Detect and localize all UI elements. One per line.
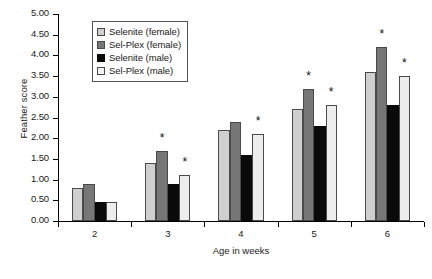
significance-asterisk: * [395, 57, 414, 69]
y-axis-tick: 3.00 [53, 97, 58, 98]
x-axis-tick [131, 222, 132, 227]
legend-swatch-icon [97, 54, 105, 62]
y-axis-line [58, 14, 59, 222]
bar-4-series-3 [252, 134, 263, 221]
legend-item: Selenite (male) [97, 51, 181, 64]
bar-3-series-1 [156, 151, 167, 221]
bar-4-series-0 [218, 130, 229, 221]
legend-item: Sel-Plex (female) [97, 38, 181, 51]
x-axis-tick [58, 222, 59, 227]
y-axis-title: Feather score [18, 39, 29, 179]
y-axis-tick: 4.50 [53, 35, 58, 36]
bar-2-series-1 [83, 184, 94, 221]
x-axis-tick-label: 5 [294, 228, 334, 239]
legend-label: Selenite (male) [109, 52, 172, 63]
y-axis-tick: 2.00 [53, 138, 58, 139]
chart-legend: Selenite (female)Sel-Plex (female)Seleni… [92, 21, 188, 82]
y-axis-tick-label: 2.00 [31, 131, 49, 142]
x-axis-line [58, 221, 424, 222]
y-axis-tick-label: 2.50 [31, 111, 49, 122]
bar-5-series-1 [303, 89, 314, 221]
y-axis-tick-label: 0.00 [31, 214, 49, 225]
y-axis-tick-label: 3.00 [31, 90, 49, 101]
significance-asterisk: * [322, 86, 341, 98]
bar-3-series-0 [145, 163, 156, 221]
bar-group: ** [292, 14, 337, 221]
bar-group: ** [365, 14, 410, 221]
y-axis-tick: 1.50 [53, 159, 58, 160]
legend-label: Selenite (female) [109, 26, 180, 37]
feather-score-bar-chart: Feather score 0.000.501.001.502.002.503.… [0, 0, 432, 279]
bar-3-series-3 [179, 175, 190, 221]
y-axis-tick-label: 1.50 [31, 152, 49, 163]
legend-swatch-icon [97, 67, 105, 75]
y-axis-tick: 0.50 [53, 200, 58, 201]
bar-6-series-0 [365, 72, 376, 221]
bar-2-series-3 [106, 202, 117, 221]
bar-5-series-3 [326, 105, 337, 221]
bar-5-series-0 [292, 109, 303, 221]
bar-group: * [218, 14, 263, 221]
y-axis-tick-label: 4.50 [31, 28, 49, 39]
significance-asterisk: * [248, 115, 267, 127]
x-axis-tick-label: 4 [221, 228, 261, 239]
y-axis-tick: 1.00 [53, 180, 58, 181]
significance-asterisk: * [299, 70, 318, 82]
y-axis-tick: 4.00 [53, 55, 58, 56]
significance-asterisk: * [175, 156, 194, 168]
legend-label: Sel-Plex (female) [109, 39, 181, 50]
bar-2-series-0 [72, 188, 83, 221]
x-axis-title: Age in weeks [58, 245, 424, 256]
y-axis-tick: 3.50 [53, 76, 58, 77]
bar-6-series-3 [399, 76, 410, 221]
legend-swatch-icon [97, 41, 105, 49]
bar-4-series-2 [241, 155, 252, 221]
significance-asterisk: * [372, 28, 391, 40]
y-axis-tick-label: 5.00 [31, 7, 49, 18]
x-axis-tick-label: 6 [367, 228, 407, 239]
legend-item: Sel-Plex (male) [97, 64, 181, 77]
y-axis-tick-label: 3.50 [31, 69, 49, 80]
x-axis-tick [351, 222, 352, 227]
x-axis-tick [204, 222, 205, 227]
bar-5-series-2 [314, 126, 325, 221]
bar-6-series-1 [376, 47, 387, 221]
bar-2-series-2 [95, 202, 106, 221]
bar-3-series-2 [168, 184, 179, 221]
legend-item: Selenite (female) [97, 25, 181, 38]
bar-4-series-1 [230, 122, 241, 221]
y-axis-tick-label: 0.50 [31, 193, 49, 204]
y-axis-tick: 2.50 [53, 118, 58, 119]
x-axis-tick-label: 3 [148, 228, 188, 239]
y-axis-tick-label: 1.00 [31, 173, 49, 184]
legend-swatch-icon [97, 28, 105, 36]
bar-6-series-2 [387, 105, 398, 221]
y-axis-tick: 5.00 [53, 14, 58, 15]
significance-asterisk: * [152, 132, 171, 144]
y-axis-tick-label: 4.00 [31, 48, 49, 59]
legend-label: Sel-Plex (male) [109, 65, 173, 76]
x-axis-tick [424, 222, 425, 227]
x-axis-tick-label: 2 [75, 228, 115, 239]
x-axis-tick [278, 222, 279, 227]
